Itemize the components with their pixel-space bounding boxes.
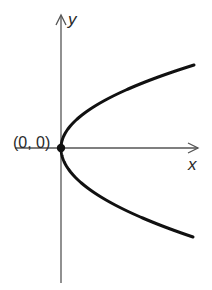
parabola-curve-path [61, 65, 194, 237]
y-axis-label: y [68, 10, 77, 30]
x-axis-label: x [188, 155, 197, 175]
vertex-point [57, 144, 65, 152]
vertex-label: (0, 0) [13, 134, 50, 152]
